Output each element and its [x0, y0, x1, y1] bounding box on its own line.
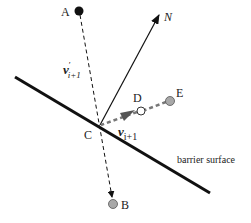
- point-a-filled: [75, 7, 84, 16]
- reflected-arrowhead-icon: [120, 110, 135, 121]
- diagram-canvas: A B C D E N v′i+1 vi+1 barrier surface: [0, 0, 251, 223]
- point-e-gray: [166, 97, 175, 106]
- label-reflected-sub: i+1: [124, 131, 137, 142]
- point-b-gray: [109, 200, 118, 209]
- label-b: B: [121, 198, 129, 212]
- label-d: D: [133, 91, 142, 105]
- incoming-trajectory-dashed: [80, 15, 112, 197]
- label-incoming-sub: i+1: [68, 70, 81, 80]
- label-incoming-velocity: v′i+1: [63, 60, 81, 80]
- label-c: C: [84, 128, 92, 142]
- label-incoming-prime: ′: [69, 60, 71, 70]
- label-normal-n: N: [163, 10, 173, 24]
- label-a: A: [61, 5, 70, 19]
- reflected-trajectory-ed: [145, 102, 166, 110]
- label-barrier-surface: barrier surface: [177, 154, 236, 165]
- label-e: E: [176, 86, 183, 100]
- diagram-svg: A B C D E N v′i+1 vi+1 barrier surface: [0, 0, 251, 223]
- point-d-open: [137, 107, 145, 115]
